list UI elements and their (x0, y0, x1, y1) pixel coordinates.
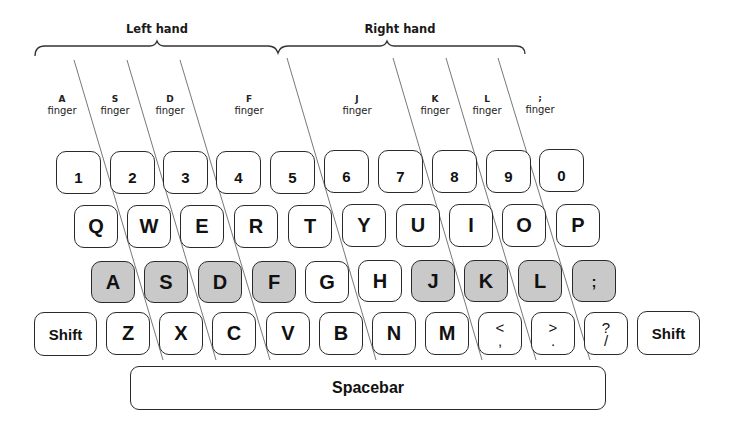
key-5[interactable]: 5 (270, 151, 315, 194)
key-o[interactable]: O (502, 204, 546, 247)
key-f[interactable]: F (252, 261, 296, 303)
key-8[interactable]: 8 (432, 150, 477, 193)
finger-label-semicolon: ;finger (525, 92, 554, 116)
left-hand-brace (35, 41, 525, 56)
key-comma-lower: , (498, 334, 502, 347)
key-v[interactable]: V (266, 312, 310, 355)
key-slash-lower: / (604, 334, 608, 347)
key-semicolon[interactable]: ; (572, 260, 616, 302)
key-m[interactable]: M (425, 312, 469, 355)
key-6[interactable]: 6 (324, 150, 369, 193)
key-right-shift[interactable]: Shift (637, 311, 700, 355)
key-s[interactable]: S (144, 261, 188, 303)
key-period[interactable]: > . (531, 312, 575, 355)
key-h[interactable]: H (358, 260, 402, 302)
key-left-shift[interactable]: Shift (34, 312, 97, 356)
key-4[interactable]: 4 (216, 151, 261, 194)
key-x[interactable]: X (159, 312, 203, 355)
finger-label-j: Jfinger (342, 93, 371, 117)
key-p[interactable]: P (556, 204, 600, 247)
key-spacebar[interactable]: Spacebar (130, 366, 606, 410)
key-b[interactable]: B (319, 312, 363, 355)
finger-label-a: Afinger (47, 93, 76, 117)
key-a[interactable]: A (91, 261, 135, 303)
finger-label-k: Kfinger (420, 93, 449, 117)
finger-label-s: Sfinger (100, 93, 129, 117)
key-g[interactable]: G (305, 261, 349, 303)
finger-label-d: Dfinger (155, 93, 184, 117)
key-period-lower: . (551, 334, 555, 347)
key-n[interactable]: N (372, 312, 416, 355)
finger-label-f: Ffinger (234, 93, 263, 117)
key-0[interactable]: 0 (539, 149, 584, 192)
key-l[interactable]: L (518, 260, 562, 302)
key-r[interactable]: R (234, 205, 278, 248)
key-e[interactable]: E (180, 205, 224, 248)
key-7[interactable]: 7 (378, 150, 423, 193)
key-comma[interactable]: < , (478, 312, 522, 355)
left-hand-label: Left hand (126, 22, 188, 36)
key-9[interactable]: 9 (486, 150, 531, 193)
keyboard-finger-diagram: Left hand Right hand Afinger Sfinger Dfi… (0, 0, 737, 430)
key-slash[interactable]: ? / (584, 312, 628, 355)
key-1[interactable]: 1 (56, 151, 101, 194)
right-hand-label: Right hand (364, 22, 435, 36)
finger-label-l: Lfinger (472, 93, 501, 117)
key-q[interactable]: Q (74, 205, 118, 248)
key-j[interactable]: J (411, 260, 455, 302)
key-d[interactable]: D (198, 261, 242, 303)
key-k[interactable]: K (464, 260, 508, 302)
key-u[interactable]: U (396, 204, 440, 247)
key-2[interactable]: 2 (110, 151, 155, 194)
key-3[interactable]: 3 (163, 151, 208, 194)
key-t[interactable]: T (288, 205, 332, 248)
key-i[interactable]: I (449, 204, 493, 247)
key-z[interactable]: Z (106, 312, 150, 355)
key-w[interactable]: W (127, 205, 171, 248)
key-c[interactable]: C (212, 312, 256, 355)
key-y[interactable]: Y (342, 204, 386, 247)
